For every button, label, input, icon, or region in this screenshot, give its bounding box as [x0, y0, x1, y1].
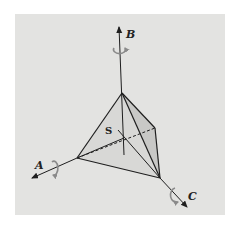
center-label: S [105, 125, 112, 136]
axis-b-label: B [125, 28, 135, 41]
axis-a-label: A [34, 159, 44, 172]
rotation-arrow-c-icon [170, 188, 178, 202]
axis-c-label: C [188, 190, 197, 203]
axis-c-line [160, 178, 187, 207]
tetrahedron-faces [77, 93, 160, 178]
tetrahedron-diagram: B A C S [0, 0, 240, 227]
